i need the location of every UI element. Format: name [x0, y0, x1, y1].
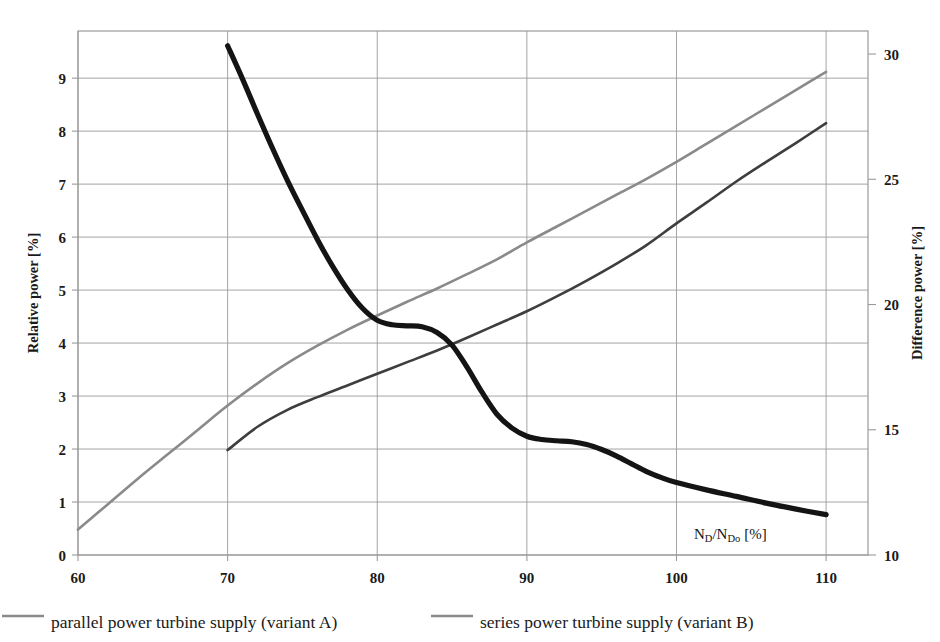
y-tick-label-left: 3 — [59, 389, 67, 405]
y-tick-label-left: 5 — [59, 283, 67, 299]
x-tick-label: 110 — [815, 570, 837, 586]
x-tick-label: 70 — [220, 570, 235, 586]
y-tick-label-left: 8 — [59, 124, 67, 140]
chart-canvas: 0123456789101520253060708090100110 — [0, 0, 940, 642]
x-tick-label: 100 — [665, 570, 688, 586]
y-tick-label-left: 1 — [59, 495, 67, 511]
chart-figure: 0123456789101520253060708090100110 Relat… — [0, 0, 940, 642]
plot-frame — [78, 31, 868, 555]
y-tick-label-right: 25 — [884, 172, 899, 188]
x-tick-label: 80 — [370, 570, 385, 586]
y-tick-label-left: 6 — [59, 230, 67, 246]
y-tick-label-right: 10 — [884, 548, 899, 564]
x-tick-label: 60 — [71, 570, 86, 586]
y-tick-label-left: 9 — [59, 71, 67, 87]
x-tick-label: 90 — [519, 570, 534, 586]
y-tick-label-left: 2 — [59, 442, 67, 458]
y-tick-label-right: 20 — [884, 297, 899, 313]
series-line — [78, 72, 826, 530]
y-tick-label-left: 4 — [59, 336, 67, 352]
y-tick-label-right: 30 — [884, 47, 899, 63]
y-tick-label-right: 15 — [884, 422, 899, 438]
y-tick-label-left: 7 — [59, 177, 67, 193]
y-tick-label-left: 0 — [59, 548, 67, 564]
